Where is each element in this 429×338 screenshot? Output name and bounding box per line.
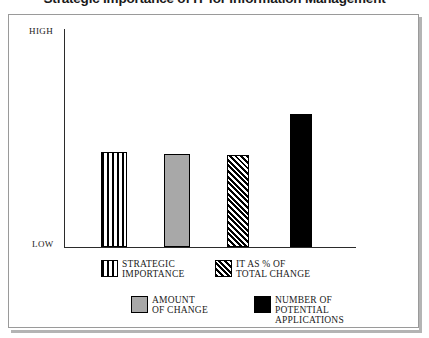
legend-label-line-1: IT AS % OF bbox=[236, 259, 310, 269]
chart-frame: HIGH LOW STRATEGIC IMPORTANCE AMOUNT OF … bbox=[8, 14, 419, 328]
legend-label-strategic-importance: STRATEGIC IMPORTANCE bbox=[122, 259, 184, 279]
legend-swatch-diagonal-hatch-icon bbox=[215, 260, 232, 277]
legend-label-line-1: AMOUNT bbox=[152, 295, 208, 305]
x-axis-line bbox=[64, 247, 356, 248]
legend-item-strategic-importance: STRATEGIC IMPORTANCE bbox=[101, 259, 184, 279]
y-axis-line bbox=[64, 29, 65, 247]
y-axis-label-low: LOW bbox=[32, 239, 54, 249]
legend-label-line-2: OF CHANGE bbox=[152, 305, 208, 315]
legend-label-line-3: APPLICATIONS bbox=[275, 315, 344, 325]
legend-swatch-vertical-stripes-icon bbox=[101, 260, 118, 277]
bar-it-as-percent-of-total-change bbox=[227, 155, 249, 247]
legend: STRATEGIC IMPORTANCE AMOUNT OF CHANGE IT… bbox=[9, 255, 420, 329]
legend-swatch-solid-black-icon bbox=[254, 296, 271, 313]
legend-swatch-solid-gray-icon bbox=[131, 296, 148, 313]
legend-item-number-of-potential-applications: NUMBER OF POTENTIAL APPLICATIONS bbox=[254, 295, 344, 325]
legend-label-line-1: NUMBER OF bbox=[275, 295, 344, 305]
legend-label-line-2: TOTAL CHANGE bbox=[236, 269, 310, 279]
legend-label-it-as-percent-of-total-change: IT AS % OF TOTAL CHANGE bbox=[236, 259, 310, 279]
bar-amount-of-change bbox=[164, 154, 190, 247]
bar-strategic-importance bbox=[101, 152, 127, 247]
legend-label-line-2: IMPORTANCE bbox=[122, 269, 184, 279]
legend-label-line-1: STRATEGIC bbox=[122, 259, 184, 269]
chart-title: Strategic Importance of IT for Informati… bbox=[0, 0, 429, 6]
legend-label-number-of-potential-applications: NUMBER OF POTENTIAL APPLICATIONS bbox=[275, 295, 344, 325]
legend-label-line-2: POTENTIAL bbox=[275, 305, 344, 315]
y-axis-label-high: HIGH bbox=[29, 26, 53, 36]
legend-item-it-as-percent-of-total-change: IT AS % OF TOTAL CHANGE bbox=[215, 259, 310, 279]
frame-shadow-bottom bbox=[11, 330, 422, 333]
legend-label-amount-of-change: AMOUNT OF CHANGE bbox=[152, 295, 208, 315]
bar-number-of-potential-applications bbox=[290, 114, 312, 247]
plot-area: HIGH LOW STRATEGIC IMPORTANCE AMOUNT OF … bbox=[9, 15, 420, 329]
legend-item-amount-of-change: AMOUNT OF CHANGE bbox=[131, 295, 208, 315]
